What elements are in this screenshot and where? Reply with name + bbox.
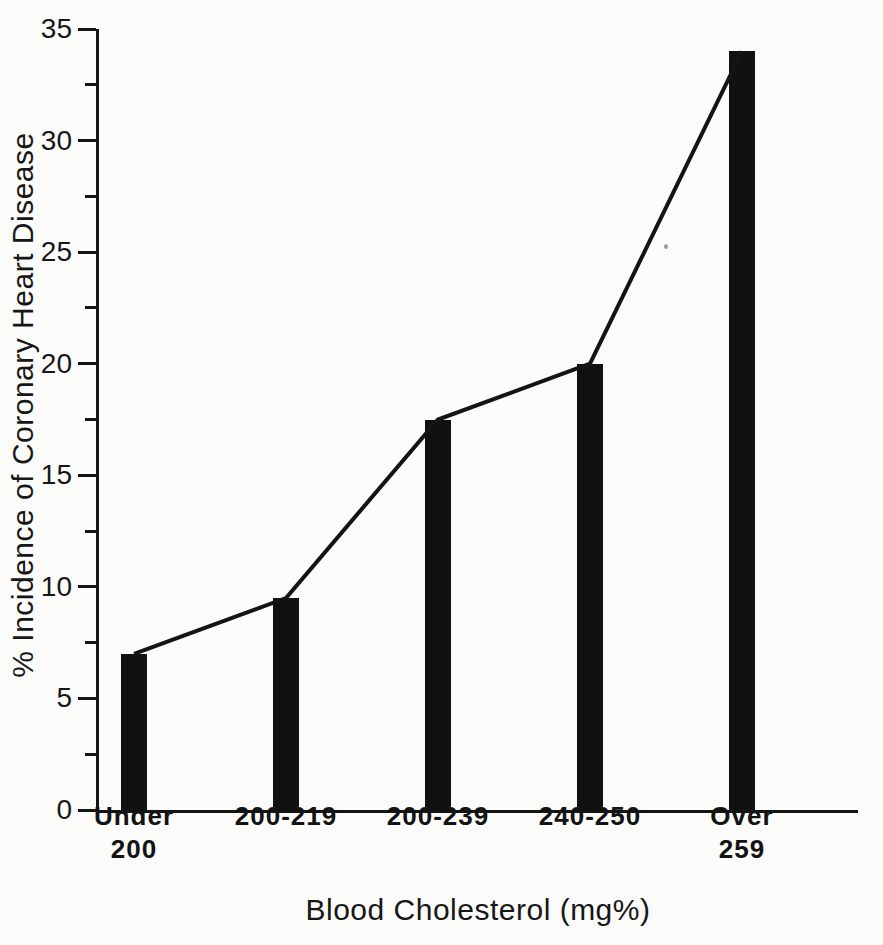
chart-figure: % Incidence of Coronary Heart Disease 05…: [0, 0, 883, 945]
y-tick-major: [78, 474, 96, 477]
y-tick-label: 5: [56, 682, 72, 714]
y-tick-minor: [85, 83, 96, 86]
y-tick-major: [78, 362, 96, 365]
y-tick-label: 25: [41, 236, 72, 268]
x-tick-label: Over259: [642, 800, 842, 865]
y-tick-label: 20: [41, 348, 72, 380]
y-tick-minor: [85, 195, 96, 198]
y-tick-major: [78, 585, 96, 588]
y-tick-label: 30: [41, 125, 72, 157]
y-tick-minor: [85, 418, 96, 421]
trend-line: [98, 29, 858, 810]
y-tick-major: [78, 251, 96, 254]
y-tick-label: 15: [41, 459, 72, 491]
y-tick-minor: [85, 641, 96, 644]
y-tick-major: [78, 697, 96, 700]
y-tick-minor: [85, 753, 96, 756]
y-tick-minor: [85, 306, 96, 309]
y-tick-minor: [85, 530, 96, 533]
y-tick-label: 35: [41, 13, 72, 45]
x-axis-title: Blood Cholesterol (mg%): [98, 893, 858, 927]
y-tick-major: [78, 139, 96, 142]
scan-speck: [664, 244, 668, 249]
y-tick-major: [78, 28, 96, 31]
y-tick-label: 10: [41, 571, 72, 603]
y-axis-title: % Incidence of Coronary Heart Disease: [0, 10, 46, 800]
plot-area: 05101520253035: [98, 29, 858, 810]
